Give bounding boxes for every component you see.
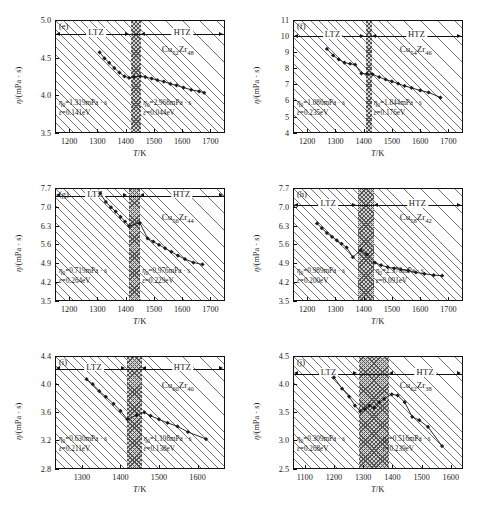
x-axis-title: T/K	[55, 316, 225, 326]
x-axis-tick-label: 1600	[189, 473, 205, 482]
y-axis-tick-label: 3.0	[267, 436, 289, 445]
x-axis-tick-label: 1200	[299, 305, 315, 314]
y-axis-tick-label: 7.0	[267, 202, 289, 211]
y-axis-tick-mark	[55, 301, 59, 302]
x-axis-tick-mark	[335, 297, 336, 301]
x-axis-tick-label: 1700	[440, 305, 456, 314]
y-axis-tick-mark	[293, 36, 297, 37]
x-axis-tick-mark	[334, 465, 335, 469]
x-axis-tick-mark	[210, 129, 211, 133]
x-axis-title: T/K	[55, 484, 225, 494]
x-axis-tick-label: 1500	[384, 137, 400, 146]
x-axis-tick-mark	[364, 297, 365, 301]
x-axis-tick-label: 1400	[112, 473, 128, 482]
y-axis-tick-label: 6	[267, 96, 289, 105]
y-axis-tick-mark	[55, 58, 59, 59]
y-axis-tick-label: 7.0	[29, 202, 51, 211]
plot-area: LTZHTZ(i)Cu60Zr40η0=0.630mPa · sε=0.211e…	[55, 356, 225, 469]
y-axis-tick-label: 5.0	[29, 16, 51, 25]
y-axis-tick-mark	[293, 244, 297, 245]
plot-area: LTZHTZ(h)Cu58Zr42η0=0.989mPa · sε=0.200e…	[293, 188, 463, 301]
x-axis-tick-mark	[97, 129, 98, 133]
x-axis-tick-label: 1200	[61, 137, 77, 146]
x-axis-title: T/K	[293, 148, 463, 158]
y-axis-tick-mark	[55, 133, 59, 134]
y-axis-tick-label: 3.5	[267, 296, 289, 305]
data-series	[293, 356, 463, 469]
x-axis-tick-label: 1400	[355, 137, 371, 146]
x-axis-tick-mark	[97, 297, 98, 301]
y-axis-tick-label: 3.5	[29, 296, 51, 305]
x-axis-tick-label: 1500	[413, 473, 429, 482]
y-axis-tick-label: 7.7	[29, 184, 51, 193]
x-axis-tick-mark	[364, 129, 365, 133]
x-axis-tick-mark	[69, 297, 70, 301]
x-axis-tick-label: 1300	[89, 137, 105, 146]
plot-area: LTZHTZ(e)Cu52Zr48η0=1.319mPa · sε=0.141e…	[55, 20, 225, 133]
panel-g: LTZHTZ(g)Cu56Zr44η0=0.719mPa · sε=0.264e…	[0, 168, 239, 337]
y-axis-tick-label: 4.5	[267, 352, 289, 361]
y-axis-tick-mark	[293, 117, 297, 118]
x-axis-tick-mark	[210, 297, 211, 301]
y-axis-tick-label: 5.6	[29, 240, 51, 249]
x-axis-tick-mark	[182, 297, 183, 301]
panel-e: LTZHTZ(e)Cu52Zr48η0=1.319mPa · sε=0.141e…	[0, 0, 239, 169]
x-axis-tick-mark	[448, 129, 449, 133]
y-axis-tick-mark	[293, 412, 297, 413]
data-series	[293, 20, 463, 133]
y-axis-tick-mark	[293, 52, 297, 53]
x-axis-tick-mark	[392, 465, 393, 469]
figure-viscosity-cuzr-panels: LTZHTZ(e)Cu52Zr48η0=1.319mPa · sε=0.141e…	[0, 0, 477, 506]
panel-j: LTZHTZ(j)Cu62Zr38η0=0.309mPa · sε=0.268e…	[238, 336, 477, 505]
y-axis-tick-mark	[293, 263, 297, 264]
x-axis-tick-mark	[182, 129, 183, 133]
x-axis-tick-mark	[82, 465, 83, 469]
y-axis-tick-label: 4.0	[29, 380, 51, 389]
y-axis-tick-mark	[293, 282, 297, 283]
y-axis-title: η/(mPa · s)	[14, 403, 23, 440]
y-axis-tick-mark	[55, 356, 59, 357]
y-axis-title: η/(mPa · s)	[14, 235, 23, 272]
plot-area: LTZHTZ(j)Cu62Zr38η0=0.309mPa · sε=0.268e…	[293, 356, 463, 469]
y-axis-tick-mark	[55, 207, 59, 208]
y-axis-tick-mark	[55, 282, 59, 283]
y-axis-tick-label: 3.5	[29, 128, 51, 137]
x-axis-tick-label: 1600	[174, 305, 190, 314]
data-series	[293, 188, 463, 301]
y-axis-tick-label: 3.5	[267, 408, 289, 417]
plot-area: LTZHTZ(f)Cu54Zr46η0=1.086mPa · sε=0.235e…	[293, 20, 463, 133]
x-axis-tick-mark	[420, 129, 421, 133]
x-axis-tick-label: 1700	[440, 137, 456, 146]
y-axis-tick-mark	[55, 95, 59, 96]
x-axis-tick-mark	[120, 465, 121, 469]
y-axis-tick-label: 4	[267, 128, 289, 137]
x-axis-title: T/K	[293, 484, 463, 494]
y-axis-tick-mark	[55, 188, 59, 189]
x-axis-tick-label: 1300	[89, 305, 105, 314]
y-axis-tick-label: 9	[267, 48, 289, 57]
y-axis-tick-label: 2.8	[29, 464, 51, 473]
y-axis-tick-mark	[293, 84, 297, 85]
x-axis-tick-mark	[363, 465, 364, 469]
x-axis-tick-mark	[448, 297, 449, 301]
x-axis-tick-mark	[305, 465, 306, 469]
x-axis-title: T/K	[55, 148, 225, 158]
y-axis-tick-label: 4.5	[29, 53, 51, 62]
y-axis-tick-label: 4.0	[267, 380, 289, 389]
y-axis-tick-mark	[55, 226, 59, 227]
y-axis-tick-mark	[293, 469, 297, 470]
y-axis-tick-mark	[55, 244, 59, 245]
x-axis-tick-mark	[335, 129, 336, 133]
data-series	[55, 188, 225, 301]
y-axis-tick-label: 4.0	[29, 91, 51, 100]
x-axis-tick-mark	[126, 297, 127, 301]
y-axis-tick-mark	[293, 133, 297, 134]
y-axis-tick-mark	[55, 263, 59, 264]
y-axis-title: η/(mPa · s)	[252, 403, 261, 440]
y-axis-tick-label: 7.7	[267, 184, 289, 193]
y-axis-tick-mark	[293, 207, 297, 208]
y-axis-tick-label: 7	[267, 80, 289, 89]
y-axis-tick-mark	[293, 68, 297, 69]
y-axis-tick-label: 6.3	[29, 221, 51, 230]
x-axis-tick-mark	[154, 129, 155, 133]
